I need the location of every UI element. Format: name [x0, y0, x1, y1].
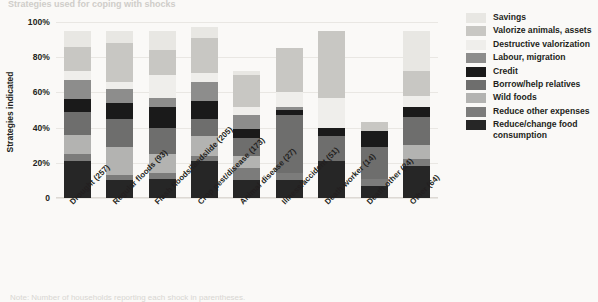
bar-segment — [106, 43, 133, 82]
legend-item[interactable]: Credit — [466, 66, 594, 77]
bar-segment — [149, 31, 176, 50]
y-axis-tick: 80% — [33, 52, 50, 62]
bar-segment — [233, 75, 260, 107]
bar-segment — [191, 82, 218, 101]
y-axis-tick: 40% — [33, 123, 50, 133]
bar-segment — [361, 131, 388, 147]
bar-slot — [56, 22, 98, 198]
y-axis-tick: 0 — [45, 193, 50, 203]
bar-segment — [318, 98, 345, 128]
legend-item[interactable]: Reduce other expenses — [466, 106, 594, 117]
bar-segment — [191, 38, 218, 73]
bar-segment — [361, 122, 388, 131]
legend-swatch — [466, 120, 486, 130]
legend-item[interactable]: Savings — [466, 12, 594, 23]
legend-item[interactable]: Wild foods — [466, 92, 594, 103]
bar-segment — [149, 50, 176, 75]
legend-swatch — [466, 80, 486, 90]
legend-label: Credit — [493, 66, 518, 77]
bar-segment — [64, 47, 91, 72]
legend-label: Savings — [493, 12, 526, 23]
legend-swatch — [466, 53, 486, 63]
legend-swatch — [466, 13, 486, 23]
bar-segment — [64, 71, 91, 80]
legend-label: Labour, migration — [493, 52, 566, 63]
legend-swatch — [466, 93, 486, 103]
bar-segment — [403, 107, 430, 118]
bar-segment — [276, 92, 303, 106]
legend-swatch — [466, 26, 486, 36]
legend-swatch — [466, 107, 486, 117]
chart-figure: Strategies used for coping with shocks S… — [0, 0, 598, 302]
stacked-bar[interactable] — [318, 31, 345, 198]
bar-segment — [64, 154, 91, 161]
bar-segment — [318, 128, 345, 137]
bar-segment — [106, 82, 133, 89]
plot-area: 020%40%60%80%100% — [56, 22, 438, 198]
bar-segment — [191, 27, 218, 38]
stacked-bar[interactable] — [233, 71, 260, 198]
bar-segment — [233, 129, 260, 138]
bar-segment — [106, 89, 133, 103]
bar-segment — [106, 103, 133, 119]
bar-segment — [64, 112, 91, 135]
y-axis-tick: 60% — [33, 87, 50, 97]
bar-segment — [64, 31, 91, 47]
bar-segment — [403, 71, 430, 96]
legend-item[interactable]: Valorize animals, assets — [466, 25, 594, 36]
figure-title-sliver: Strategies used for coping with shocks — [8, 0, 338, 9]
bar-segment — [191, 101, 218, 119]
legend-label: Reduce other expenses — [493, 106, 589, 117]
bar-segment — [106, 31, 133, 43]
stacked-bar[interactable] — [106, 31, 133, 198]
y-axis-tick: 20% — [33, 158, 50, 168]
y-axis-label: Strategies indicated — [5, 72, 15, 153]
bar-segment — [149, 98, 176, 107]
y-axis-tick: 100% — [28, 17, 50, 27]
bar-segment — [403, 117, 430, 145]
legend-swatch — [466, 40, 486, 50]
bar-segment — [106, 147, 133, 175]
legend-label: Borrow/help relatives — [493, 79, 580, 90]
chart-legend: SavingsValorize animals, assetsDestructi… — [466, 12, 594, 143]
bar-segment — [233, 115, 260, 129]
bar-segment — [191, 73, 218, 82]
bar-segment — [106, 119, 133, 147]
legend-item[interactable]: Reduce/change food consumption — [466, 119, 594, 140]
legend-label: Reduce/change food consumption — [493, 119, 594, 140]
x-axis-labels: Drought (257)Regular floods (93)Flash fl… — [56, 200, 438, 300]
legend-label: Destructive valorization — [493, 39, 590, 50]
stacked-bar[interactable] — [64, 31, 91, 198]
stacked-bar[interactable] — [276, 48, 303, 198]
legend-label: Wild foods — [493, 92, 537, 103]
legend-item[interactable]: Labour, migration — [466, 52, 594, 63]
legend-label: Valorize animals, assets — [493, 25, 591, 36]
bar-segment — [64, 135, 91, 154]
bar-segment — [149, 75, 176, 98]
bar-segment — [64, 80, 91, 99]
bar-segment — [276, 48, 303, 92]
bar-segment — [191, 119, 218, 137]
bar-segment — [403, 31, 430, 71]
caption-sliver: Note: Number of households reporting eac… — [10, 294, 310, 302]
stacked-bar[interactable] — [403, 31, 430, 198]
bar-segment — [403, 96, 430, 107]
bar-group — [56, 22, 438, 198]
legend-swatch — [466, 67, 486, 77]
stacked-bar[interactable] — [191, 27, 218, 198]
bar-segment — [318, 31, 345, 98]
bar-segment — [149, 107, 176, 128]
bar-segment — [64, 99, 91, 111]
bar-segment — [233, 107, 260, 116]
legend-item[interactable]: Borrow/help relatives — [466, 79, 594, 90]
stacked-bar[interactable] — [149, 31, 176, 198]
legend-item[interactable]: Destructive valorization — [466, 39, 594, 50]
